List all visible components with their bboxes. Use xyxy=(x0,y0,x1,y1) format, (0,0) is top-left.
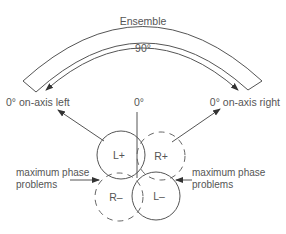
ensemble-label: Ensemble xyxy=(120,15,167,27)
lobe-r-minus: R– xyxy=(95,173,143,221)
ensemble-band xyxy=(23,27,262,93)
center-axis-label: 0° xyxy=(134,96,144,108)
right-axis-arrow xyxy=(172,109,220,142)
lobe-l-minus: L– xyxy=(132,172,180,220)
right-phase-problem-label-line2: problems xyxy=(192,179,233,190)
right-phase-problem-label-line1: maximum phase xyxy=(192,167,266,178)
left-axis-arrow xyxy=(58,110,104,141)
left-phase-problem-label-line1: maximum phase xyxy=(16,167,90,178)
svg-text:L–: L– xyxy=(153,190,165,202)
svg-text:R+: R+ xyxy=(154,150,168,162)
left-phase-problem-label-line2: problems xyxy=(16,179,57,190)
ninety-degree-arc-arrow xyxy=(46,48,238,90)
svg-text:R–: R– xyxy=(109,191,123,203)
right-axis-label: 0° on-axis right xyxy=(210,96,280,108)
stereo-mic-diagram: Ensemble 90° 0° on-axis left 0° 0° on-ax… xyxy=(0,0,286,234)
angle-label: 90° xyxy=(135,42,151,54)
lobe-l-plus: L+ xyxy=(97,131,145,179)
svg-text:L+: L+ xyxy=(113,149,125,161)
left-axis-label: 0° on-axis left xyxy=(6,96,70,108)
